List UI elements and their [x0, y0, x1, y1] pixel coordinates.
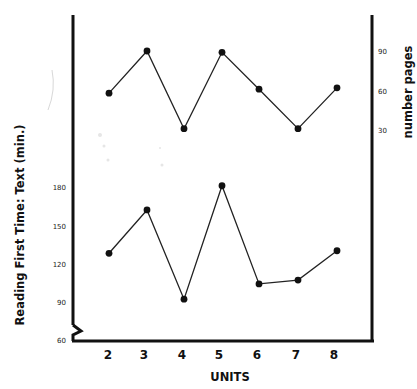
x-tick-8: 8	[330, 348, 338, 362]
x-axis-ticks: 2 3 4 5 6 7 8	[104, 348, 338, 362]
data-point	[106, 250, 113, 257]
left-tick-120: 120	[53, 261, 66, 269]
right-tick-60: 60	[378, 88, 387, 96]
left-axis-ticks: 180 150 120 90 60	[53, 184, 66, 345]
axes	[72, 15, 374, 342]
left-tick-60: 60	[57, 337, 66, 345]
data-point	[106, 90, 113, 97]
data-point	[219, 49, 226, 56]
x-tick-3: 3	[140, 348, 148, 362]
left-tick-180: 180	[53, 184, 66, 192]
dual-line-chart: 180 150 120 90 60 90 60 30 2 3 4 5 6 7 8…	[0, 0, 417, 389]
data-point	[256, 86, 263, 93]
data-point	[334, 84, 341, 91]
scan-smudge	[98, 133, 164, 167]
x-tick-5: 5	[215, 348, 223, 362]
data-point	[256, 281, 263, 288]
data-point	[295, 277, 302, 284]
data-point	[144, 48, 151, 55]
axis-break-icon	[73, 325, 81, 341]
x-tick-4: 4	[178, 348, 186, 362]
series-line-number-pages	[109, 51, 337, 129]
left-tick-150: 150	[53, 223, 66, 231]
data-point	[181, 296, 188, 303]
data-point	[144, 207, 151, 214]
right-tick-30: 30	[378, 127, 387, 135]
x-tick-2: 2	[104, 348, 112, 362]
scan-artifact	[48, 70, 53, 110]
data-point	[334, 247, 341, 254]
x-axis-label: UNITS	[210, 370, 249, 384]
left-tick-90: 90	[57, 299, 66, 307]
series-line-reading-time	[109, 186, 337, 299]
x-tick-7: 7	[292, 348, 300, 362]
left-axis-label: Reading First Time: Text (min.)	[13, 124, 27, 325]
right-axis-label: number pages	[401, 45, 415, 138]
x-tick-6: 6	[253, 348, 261, 362]
right-tick-90: 90	[378, 48, 387, 56]
data-point	[181, 125, 188, 132]
data-point	[295, 125, 302, 132]
data-point	[219, 182, 226, 189]
series-markers-number-pages	[106, 48, 341, 132]
right-axis-ticks: 90 60 30	[378, 48, 387, 135]
series-markers-reading-time	[106, 182, 341, 302]
